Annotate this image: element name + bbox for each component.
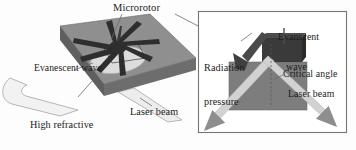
figure-root: Microrotor Evanescent wave High refracti… bbox=[0, 0, 356, 150]
label-inset-laser-beam: Laser beam bbox=[288, 89, 334, 99]
label-evanescent-wave: Evanescent wave bbox=[34, 63, 102, 73]
label-critical-angle: Critical angle bbox=[283, 69, 337, 79]
label-radiation-line2: pressure bbox=[204, 96, 245, 107]
leader-prism bbox=[78, 80, 93, 97]
label-high-refractive-index-prism: High refractive index prism bbox=[30, 99, 93, 150]
label-radiation-pressure: Radiation pressure bbox=[204, 39, 245, 130]
label-inset-evanescent-line1: Evanscent bbox=[278, 32, 319, 42]
label-inset-evanescent-wave: Evanscent wave bbox=[278, 12, 319, 92]
label-laser-beam-main: Laser beam bbox=[130, 107, 178, 117]
label-microrotor: Microrotor bbox=[113, 3, 160, 14]
label-radiation-line1: Radiation bbox=[204, 62, 245, 73]
label-prism-line1: High refractive bbox=[30, 120, 93, 130]
leader-to-inset bbox=[175, 14, 200, 27]
